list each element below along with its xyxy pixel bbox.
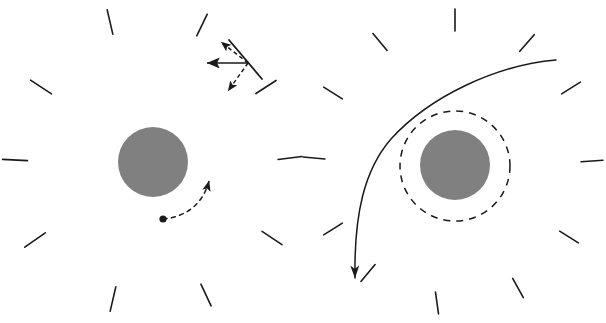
diagram-canvas <box>0 0 606 323</box>
test-particle-dot <box>159 215 166 222</box>
right-mass-sphere <box>420 130 490 200</box>
left-mass-sphere <box>118 127 188 197</box>
background <box>0 0 606 323</box>
two-panel-shear-diagram <box>0 0 606 323</box>
